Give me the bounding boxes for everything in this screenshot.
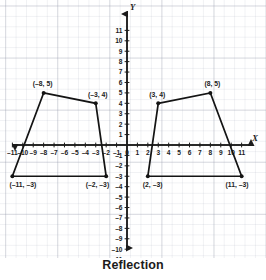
figure-caption: Reflection — [0, 258, 266, 272]
y-tick-label: 3 — [119, 110, 123, 117]
x-tick-label: 0 — [125, 149, 129, 156]
polygon-image — [146, 91, 244, 178]
x-tick-label: 11 — [238, 149, 245, 156]
y-tick-label: 1 — [119, 131, 123, 138]
vertex-coordinate-label: (3, 4) — [149, 91, 165, 99]
vertex-coordinate-label: (11, –3) — [226, 181, 249, 189]
y-tick-label: 7 — [119, 68, 123, 75]
vertex-point — [156, 101, 160, 105]
vertex-point — [42, 91, 46, 95]
x-tick-label: 2 — [146, 149, 150, 156]
vertex-point — [146, 174, 150, 178]
axes-group — [15, 14, 251, 248]
y-tick-label: –5 — [115, 194, 123, 201]
x-tick-label: 1 — [136, 149, 140, 156]
x-tick-label: 4 — [167, 149, 171, 156]
y-tick-label: –4 — [115, 183, 123, 190]
y-axis-label: Y — [130, 2, 136, 12]
y-tick-label: 10 — [115, 37, 123, 44]
polygon-outline — [12, 93, 106, 176]
vertex-coordinate-label: (–2, –3) — [86, 181, 109, 189]
y-tick-label: –10 — [111, 246, 122, 253]
polygon-pre-image — [10, 91, 108, 178]
y-tick-label: –7 — [115, 214, 123, 221]
vertex-coordinate-label: (8, 5) — [204, 80, 220, 88]
vertex-point — [104, 174, 108, 178]
y-tick-label: –8 — [115, 225, 123, 232]
coordinate-plane: –11–10–9–8–7–6–5–4–3–2–101234567891011 –… — [0, 0, 266, 258]
x-tick-label: –4 — [82, 149, 90, 156]
x-tick-label: –6 — [61, 149, 69, 156]
vertex-coordinate-label: (–8, 5) — [33, 80, 53, 88]
vertex-coordinate-label: (–3, 4) — [88, 91, 108, 99]
x-tick-label: –7 — [50, 149, 58, 156]
y-tick-label: 9 — [119, 48, 123, 55]
y-tick-label: 6 — [119, 79, 123, 86]
y-tick-label: –2 — [115, 162, 123, 169]
x-tick-label: 3 — [156, 149, 160, 156]
x-tick-label: –9 — [30, 149, 38, 156]
vertex-point — [10, 174, 14, 178]
y-tick-label: 5 — [119, 89, 123, 96]
x-tick-label: –5 — [71, 149, 79, 156]
x-tick-label: 6 — [188, 149, 192, 156]
vertex-coordinate-label: (2, –3) — [143, 181, 163, 189]
x-tick-label: 9 — [219, 149, 223, 156]
reflection-figure: –11–10–9–8–7–6–5–4–3–2–101234567891011 –… — [0, 0, 266, 280]
x-tick-label: 7 — [198, 149, 202, 156]
x-tick-label: –8 — [40, 149, 48, 156]
polygon-outline — [148, 93, 242, 176]
x-axis-label: X — [251, 133, 258, 143]
x-tick-label: –3 — [92, 149, 100, 156]
y-tick-label: 11 — [116, 27, 123, 34]
x-tick-label: 5 — [177, 149, 181, 156]
vertex-coordinate-label: (–11, –3) — [9, 181, 36, 189]
x-tick-label: 8 — [209, 149, 213, 156]
y-tick-label: –9 — [115, 235, 123, 242]
vertex-point — [240, 174, 244, 178]
vertex-point — [94, 101, 98, 105]
vertex-point — [208, 91, 212, 95]
y-tick-label: 8 — [119, 58, 123, 65]
y-tick-label: –6 — [115, 204, 123, 211]
y-axis-tick-labels: –11–10–9–8–7–6–5–4–3–2–11234567891011 — [111, 27, 122, 258]
y-tick-label: –1 — [115, 152, 123, 159]
x-axis-tick-labels: –11–10–9–8–7–6–5–4–3–2–101234567891011 — [7, 149, 245, 156]
y-tick-label: 4 — [119, 100, 123, 107]
y-tick-label: 2 — [119, 121, 123, 128]
y-tick-label: –3 — [115, 173, 123, 180]
